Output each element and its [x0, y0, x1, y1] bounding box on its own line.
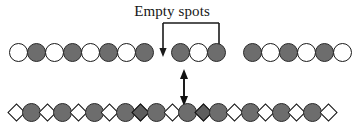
lattice-site-empty-circle — [81, 43, 100, 62]
lattice-site-empty-circle — [333, 43, 352, 62]
caption-text-alt: Empty spots — [0, 0, 1, 1]
lattice-site-empty-circle — [189, 43, 208, 62]
lattice-site-occupied-circle — [135, 43, 154, 62]
bottom-lattice-row — [0, 103, 344, 133]
lattice-site-empty-circle — [117, 43, 136, 62]
top-lattice-row — [0, 43, 344, 73]
lattice-site-occupied-circle — [27, 43, 46, 62]
lattice-site-empty-circle — [9, 43, 28, 62]
lattice-site-empty-circle — [297, 43, 316, 62]
empty-spots-label: Empty spots — [0, 2, 344, 20]
lattice-site-occupied-circle — [315, 43, 334, 62]
lattice-site-occupied-circle — [63, 43, 82, 62]
lattice-site-occupied-circle — [171, 43, 190, 62]
double-headed-vertical-arrow — [180, 69, 188, 106]
lattice-site-empty-circle — [45, 43, 64, 62]
lattice-site-occupied-circle — [243, 43, 262, 62]
lattice-site-empty-diamond — [319, 103, 337, 121]
lattice-site-occupied-circle — [207, 43, 226, 62]
lattice-site-empty-circle — [261, 43, 280, 62]
lattice-site-occupied-circle — [99, 43, 118, 62]
lattice-site-occupied-circle — [279, 43, 298, 62]
